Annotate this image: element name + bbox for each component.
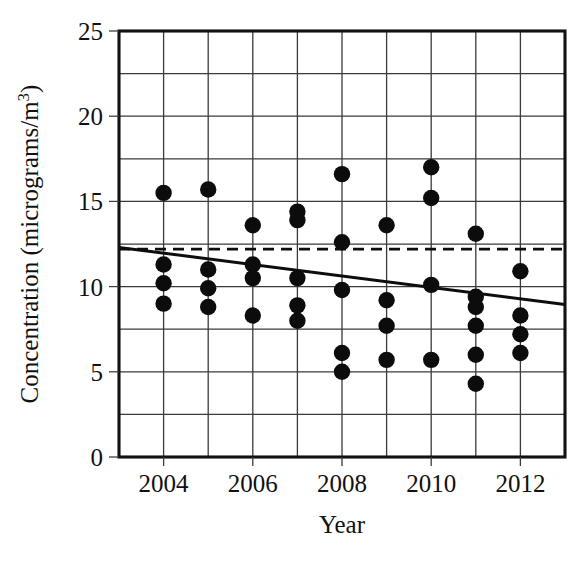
data-point [378, 217, 394, 233]
data-point [334, 345, 350, 361]
data-point [423, 190, 439, 206]
data-point [200, 181, 216, 197]
data-point [200, 261, 216, 277]
y-axis-tick-labels: 0510152025 [78, 18, 103, 471]
data-point [334, 234, 350, 250]
chart-canvas: 0510152025 20042006200820102012 Year Con… [0, 0, 585, 563]
x-tick-label: 2008 [317, 470, 367, 497]
data-point [289, 212, 305, 228]
x-tick-label: 2012 [495, 470, 545, 497]
data-point [423, 277, 439, 293]
data-point [378, 352, 394, 368]
data-point [200, 299, 216, 315]
data-point [200, 280, 216, 296]
y-tick-label: 0 [91, 444, 104, 471]
data-point [512, 326, 528, 342]
data-point [245, 217, 261, 233]
data-point [378, 318, 394, 334]
x-tick-label: 2004 [139, 470, 190, 497]
data-point [512, 263, 528, 279]
data-point [334, 282, 350, 298]
y-axis-title: Concentration (micrograms/m3) [14, 85, 44, 404]
data-point [155, 275, 171, 291]
data-point [245, 270, 261, 286]
data-point [468, 347, 484, 363]
data-point [289, 297, 305, 313]
y-tick-label: 5 [91, 359, 104, 386]
y-tick-label: 10 [78, 274, 103, 301]
x-tick-label: 2006 [228, 470, 278, 497]
data-point [378, 292, 394, 308]
data-point [334, 364, 350, 380]
data-point [468, 299, 484, 315]
data-point [155, 256, 171, 272]
x-tick-label: 2010 [406, 470, 456, 497]
data-point [289, 270, 305, 286]
y-tick-label: 25 [78, 18, 103, 45]
data-point [468, 318, 484, 334]
data-point [512, 345, 528, 361]
data-point [468, 376, 484, 392]
data-point [289, 312, 305, 328]
data-point [468, 226, 484, 242]
x-axis-tick-labels: 20042006200820102012 [139, 470, 546, 497]
data-point [155, 185, 171, 201]
y-tick-label: 20 [78, 103, 103, 130]
x-axis-title: Year [319, 511, 366, 538]
data-point [423, 352, 439, 368]
y-tick-label: 15 [78, 188, 103, 215]
scatter-chart: 0510152025 20042006200820102012 Year Con… [0, 0, 585, 563]
data-point [245, 307, 261, 323]
data-point [512, 307, 528, 323]
data-point [155, 295, 171, 311]
data-point [334, 166, 350, 182]
data-point [423, 159, 439, 175]
